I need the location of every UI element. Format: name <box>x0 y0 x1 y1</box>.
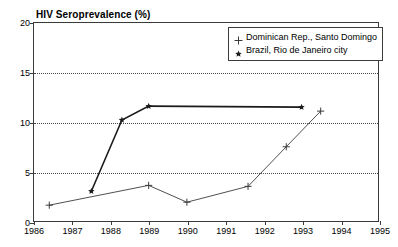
x-tick-label: 1990 <box>178 227 198 236</box>
data-point-marker <box>88 188 94 194</box>
y-tick-label: 5 <box>25 169 30 178</box>
series-plus <box>46 108 325 209</box>
data-point-marker <box>183 199 190 206</box>
star-icon <box>233 45 244 56</box>
legend-label: Dominican Rep., Santo Domingo <box>246 33 377 42</box>
x-tick-mark <box>34 221 35 225</box>
legend: Dominican Rep., Santo DomingoBrazil, Rio… <box>228 27 383 61</box>
chart-title: HIV Seroprevalence (%) <box>36 9 150 20</box>
data-point-marker <box>235 51 241 57</box>
x-tick-label: 1995 <box>370 227 390 236</box>
legend-item: Dominican Rep., Santo Domingo <box>233 31 377 44</box>
x-tick-mark <box>303 221 304 225</box>
x-tick-mark <box>342 221 343 225</box>
data-point-marker <box>235 37 243 45</box>
legend-item: Brazil, Rio de Janeiro city <box>233 44 377 57</box>
y-tick-label: 10 <box>20 119 30 128</box>
x-tick-label: 1992 <box>255 227 275 236</box>
data-point-marker <box>46 202 53 209</box>
data-point-marker <box>145 182 152 189</box>
chart-container: HIV Seroprevalence (%) 05101520 19861987… <box>0 0 398 247</box>
x-tick-label: 1988 <box>101 227 121 236</box>
x-tick-mark <box>149 221 150 225</box>
data-point-marker <box>298 104 304 110</box>
x-tick-mark <box>226 221 227 225</box>
plus-icon <box>233 32 244 43</box>
y-tick-label: 15 <box>20 69 30 78</box>
x-tick-label: 1991 <box>216 227 236 236</box>
x-tick-mark <box>188 221 189 225</box>
legend-label: Brazil, Rio de Janeiro city <box>246 46 348 55</box>
y-tick-label: 20 <box>20 19 30 28</box>
x-tick-label: 1993 <box>293 227 313 236</box>
x-tick-label: 1987 <box>62 227 82 236</box>
series-star <box>88 103 305 194</box>
x-tick-mark <box>72 221 73 225</box>
x-tick-label: 1989 <box>139 227 159 236</box>
x-tick-label: 1994 <box>332 227 352 236</box>
x-tick-mark <box>265 221 266 225</box>
x-tick-mark <box>111 221 112 225</box>
x-tick-mark <box>380 221 381 225</box>
x-tick-label: 1986 <box>24 227 44 236</box>
